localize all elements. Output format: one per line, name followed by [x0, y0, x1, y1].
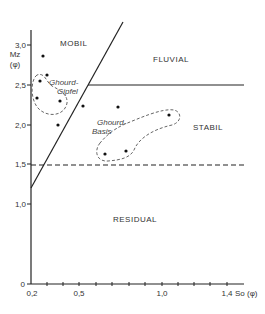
data-point	[58, 99, 61, 102]
ghourd-gipfel-label-line1: Ghourd-	[49, 78, 79, 87]
y-axis-title: Mz	[10, 50, 21, 59]
ghourd-gipfel-label-line2: Gipfel	[57, 87, 78, 96]
data-point	[45, 73, 48, 76]
region-fluvial-label: FLUVIAL	[153, 55, 189, 64]
data-point	[116, 105, 119, 108]
y-tick-1-5: 1,5	[15, 160, 27, 169]
x-tick-1-4: 1,4	[221, 289, 233, 298]
y-tick-3-0: 3,0	[15, 41, 27, 50]
data-point	[103, 152, 106, 155]
y-tick-0: 0	[21, 280, 26, 289]
data-point	[167, 113, 170, 116]
data-point	[56, 123, 59, 126]
y-axis-unit: (φ)	[10, 60, 21, 69]
y-tick-2-5: 2,5	[15, 81, 27, 90]
data-point	[81, 104, 84, 107]
y-tick-1-0: 1,0	[15, 200, 27, 209]
ghourd-basis-label-line1: Ghourd-	[97, 118, 127, 127]
data-point	[124, 149, 127, 152]
scatter-chart: 0 1,0 1,5 2,0 2,5 3,0 Mz (φ) 0,2 0,5 1,0…	[0, 0, 265, 314]
y-tick-2-0: 2,0	[15, 121, 27, 130]
data-point	[41, 54, 44, 57]
region-stabil-label: STABIL	[193, 123, 223, 132]
x-tick-0-2: 0,2	[26, 289, 38, 298]
data-point	[35, 96, 38, 99]
x-axis-title: So (φ)	[235, 289, 258, 298]
ghourd-basis-label-line2: Basis	[92, 127, 112, 136]
region-residual-label: RESIDUAL	[113, 215, 157, 224]
data-point	[38, 79, 41, 82]
region-mobil-label: MOBIL	[60, 39, 87, 48]
x-tick-1-0: 1,0	[156, 289, 168, 298]
x-tick-0-5: 0,5	[73, 289, 85, 298]
data-points	[35, 54, 170, 155]
